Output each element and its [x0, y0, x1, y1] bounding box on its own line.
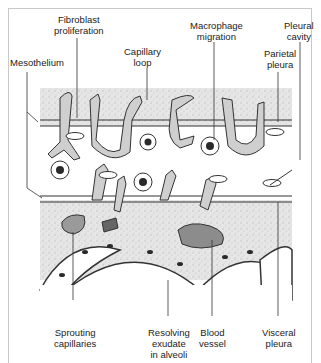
label-blood-vessel: Blood vessel: [199, 327, 226, 349]
label-macrophage-migration: Macrophage migration: [190, 20, 243, 42]
macrophages: [51, 134, 219, 191]
label-capillary-loop: Capillary loop: [124, 46, 161, 68]
label-fibroblast-proliferation: Fibroblast proliferation: [54, 14, 104, 36]
label-sprouting-capillaries: Sprouting capillaries: [54, 327, 96, 349]
label-resolving-exudate: Resolving exudate in alveoli: [148, 327, 190, 360]
label-pleural-cavity: Pleural cavity: [284, 20, 314, 42]
label-mesothelium: Mesothelium: [10, 57, 64, 68]
label-visceral-pleura: Visceral pleura: [262, 327, 296, 349]
label-parietal-pleura: Parietal pleura: [264, 48, 296, 70]
